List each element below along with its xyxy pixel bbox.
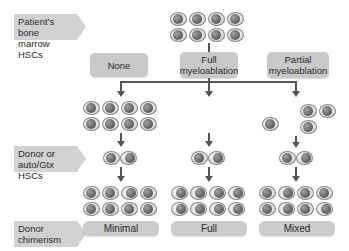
arrow-down-icon [205, 176, 213, 182]
conditioning-full-myeloablation: Full myeloablation [180, 52, 238, 78]
outcome-full: Full [171, 221, 247, 236]
arrow-down-icon [292, 91, 300, 97]
arrow-down-icon [117, 176, 125, 182]
patient-hscs-label: Patient's bone marrow HSCs [14, 14, 77, 40]
arrow-stem [208, 167, 210, 176]
arrow-stem [120, 167, 122, 176]
outcome-mixed: Mixed [259, 221, 335, 236]
donor-hscs-label: Donor or auto/Gtx HSCs [14, 146, 77, 172]
donor-chimerism-label: Donor chimerism [14, 221, 77, 247]
outcome-minimal: Minimal [83, 221, 159, 236]
conditioning-none: None [90, 53, 148, 77]
arrow-stem [208, 133, 210, 141]
branch-center-stem [208, 81, 210, 91]
branch-left-stem [120, 81, 122, 91]
arrow-down-icon [205, 91, 213, 97]
arrow-down-icon [292, 142, 300, 148]
arrow-down-icon [205, 141, 213, 147]
arrow-stem [295, 167, 297, 176]
arrow-down-icon [117, 141, 125, 147]
conditioning-partial-myeloablation: Partial myeloablation [267, 52, 329, 78]
arrow-down-icon [117, 91, 125, 97]
arrow-stem [120, 133, 122, 141]
branch-right-stem [295, 81, 297, 91]
arrow-down-icon [292, 176, 300, 182]
